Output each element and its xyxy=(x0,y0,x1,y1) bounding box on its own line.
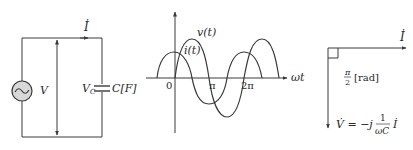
svg-text:[rad]: [rad] xyxy=(354,72,379,83)
waveform-plot: v(t) i(t) 0 π 2π ωt xyxy=(146,12,305,133)
right-angle-icon xyxy=(328,48,338,58)
current-waveform-label: i(t) xyxy=(184,44,201,57)
tick-pi-label: π xyxy=(209,80,216,91)
source-voltage-label: V xyxy=(40,84,49,97)
circuit-bottom-wire xyxy=(22,92,102,137)
svg-text:1: 1 xyxy=(380,113,386,123)
svg-text:İ: İ xyxy=(392,117,398,131)
capacitor-voltage-label: VC xyxy=(82,82,96,96)
capacitor-icon xyxy=(94,86,110,91)
svg-text:2: 2 xyxy=(345,78,350,87)
voltage-phasor-equation: V̇ = −j 1 ωC İ xyxy=(336,113,398,136)
svg-text:π: π xyxy=(344,68,351,77)
circuit-current-label: İ xyxy=(83,19,89,34)
phasor-diagram: İ π 2 [rad] V̇ = −j 1 ωC İ xyxy=(328,29,406,136)
circuit-diagram: İ V VC C[F] xyxy=(12,19,137,137)
ac-source-icon xyxy=(12,81,32,101)
circuit-top-wire xyxy=(22,38,102,84)
x-axis-label: ωt xyxy=(291,71,305,84)
svg-text:V̇ = −j: V̇ = −j xyxy=(336,118,373,131)
capacitor-label: C[F] xyxy=(112,82,137,95)
svg-text:ωC: ωC xyxy=(375,126,389,136)
phasor-current-label: İ xyxy=(399,29,405,44)
capacitor-ac-diagram: İ V VC C[F] v(t) i(t) 0 π 2π ωt xyxy=(0,0,413,150)
origin-label: 0 xyxy=(166,80,172,91)
phase-angle-label: π 2 [rad] xyxy=(344,68,379,87)
voltage-waveform-label: v(t) xyxy=(197,26,216,39)
tick-2pi-label: 2π xyxy=(241,80,254,91)
